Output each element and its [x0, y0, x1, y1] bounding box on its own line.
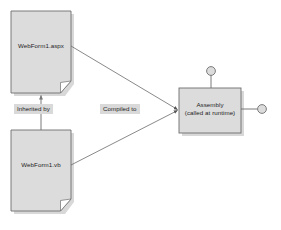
edge-compiled-to-vb	[71, 111, 178, 166]
edge-label-compiled-to: Compiled to	[100, 104, 140, 114]
node-webform-aspx[interactable]	[11, 11, 71, 93]
interface-right-icon[interactable]	[258, 105, 267, 114]
node-assembly[interactable]	[179, 88, 241, 133]
node-webform-vb[interactable]	[11, 130, 71, 211]
edge-label-inherited-by: Inherited by	[14, 104, 53, 114]
diagram-canvas: WebForm1.aspx WebForm1.vb Assembly (call…	[0, 0, 281, 230]
interface-top-icon[interactable]	[207, 67, 216, 76]
diagram-shapes-layer	[0, 0, 281, 230]
edge-compiled-to-aspx	[71, 46, 178, 110]
